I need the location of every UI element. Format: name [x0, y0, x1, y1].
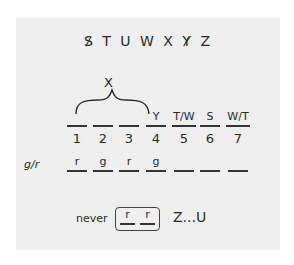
alphabet-row: S T U W X Y Z	[0, 33, 294, 49]
position-number-2: 2	[93, 131, 113, 146]
letter-slot-7: W/T	[226, 110, 250, 127]
color-slot-5	[174, 155, 194, 172]
letter-w: W	[140, 33, 154, 49]
letter-slot-4: Y	[146, 110, 166, 127]
position-number-3: 3	[119, 131, 139, 146]
rule-slot-2: r	[140, 208, 155, 225]
color-slot-7	[228, 155, 248, 172]
position-number-1: 1	[67, 131, 87, 146]
rule-suffix: Z...U	[173, 209, 206, 225]
color-slot-4: g	[146, 155, 166, 172]
letter-u: U	[120, 33, 130, 49]
rule-prefix: never	[76, 212, 108, 225]
letter-slot-1	[67, 110, 87, 127]
color-slot-2: g	[93, 155, 113, 172]
position-number-7: 7	[228, 131, 248, 146]
color-slot-1: r	[67, 155, 87, 172]
position-number-4: 4	[146, 131, 166, 146]
position-number-6: 6	[200, 131, 220, 146]
letter-s: S	[84, 33, 93, 49]
letter-z: Z	[200, 33, 210, 49]
letter-slot-5: T/W	[172, 110, 196, 127]
letter-t: T	[102, 33, 111, 49]
rule-slot-1: r	[120, 208, 135, 225]
position-number-5: 5	[174, 131, 194, 146]
letter-slot-2	[93, 110, 113, 127]
color-row-label: g/r	[24, 158, 39, 171]
color-slot-3: r	[119, 155, 139, 172]
letter-y: Y	[182, 33, 191, 49]
letter-slot-3	[119, 110, 139, 127]
letter-slot-6: S	[200, 110, 220, 127]
letter-x: X	[163, 33, 173, 49]
color-slot-6	[200, 155, 220, 172]
